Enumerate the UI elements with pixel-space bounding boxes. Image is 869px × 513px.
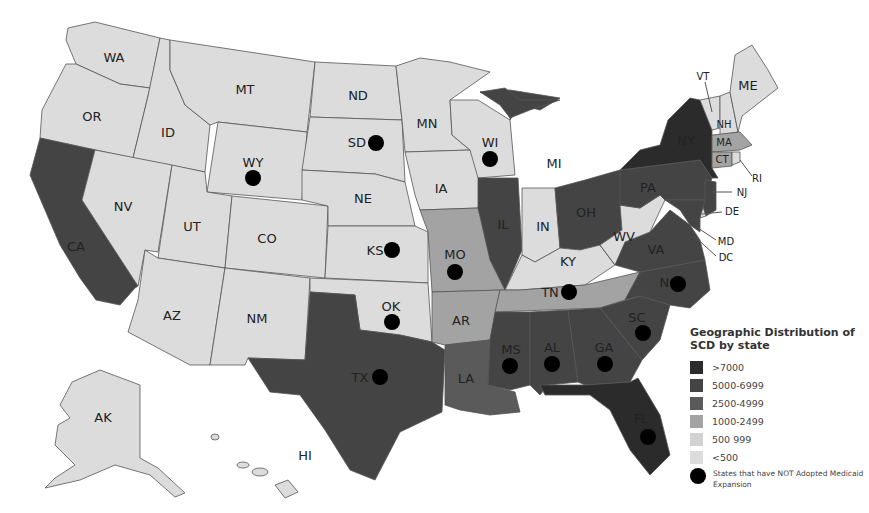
label-mi: MI [546,156,561,171]
label-id: ID [161,125,175,140]
marker-wi [482,151,498,167]
marker-sc [635,325,651,341]
legend-swatch [690,451,703,464]
label-ri: RI [752,173,762,184]
marker-nc [670,276,686,292]
label-co: CO [257,231,276,246]
map-legend: Geographic Distribution of SCD by state … [690,326,865,490]
label-il: IL [497,217,509,232]
marker-tx [372,369,388,385]
label-al: AL [544,340,561,355]
label-ut: UT [183,219,201,234]
label-nv: NV [114,199,133,214]
legend-label: >7000 [712,362,744,373]
label-md: MD [718,236,735,247]
label-ak: AK [94,410,112,425]
label-oh: OH [576,205,596,220]
legend-item: <500 [690,448,865,466]
state-hi-island [211,434,219,440]
label-az: AZ [163,308,181,323]
marker-mo [447,264,463,280]
label-tn: TN [540,285,559,300]
label-ne: NE [354,191,372,206]
marker-fl [640,429,656,445]
marker-ms [502,358,518,374]
legend-label: 2500-4999 [712,398,764,409]
label-ky: KY [560,254,576,269]
label-nd: ND [348,88,368,103]
legend-item: 2500-4999 [690,394,865,412]
label-dc: DC [719,252,734,263]
marker-tn [561,284,577,300]
label-ms: MS [501,342,520,357]
label-vt: VT [697,71,711,82]
label-sc: SC [628,310,645,325]
state-hi-island [252,468,268,476]
label-ma: MA [716,137,732,148]
legend-label: 500 999 [712,434,751,445]
legend-swatch [690,433,703,446]
label-ny: NY [677,133,695,148]
label-nm: NM [247,311,268,326]
legend-item: 1000-2499 [690,412,865,430]
label-mt: MT [235,82,254,97]
label-fl: FL [634,411,649,426]
label-wy: WY [243,155,264,170]
label-wv: WV [613,229,635,244]
label-ks: KS [367,243,384,258]
marker-ks [384,242,400,258]
label-nh: NH [717,119,732,130]
marker-sd [368,135,384,151]
leader-md [698,228,716,240]
label-ar: AR [452,313,470,328]
legend-marker-label: States that have NOT Adopted Medicaid Ex… [713,468,865,490]
state-hi-island [237,462,249,468]
label-ca: CA [67,239,85,254]
label-wi: WI [482,135,499,150]
label-mn: MN [417,116,438,131]
label-or: OR [82,109,101,124]
label-me: ME [738,78,757,93]
marker-ga [597,356,613,372]
label-de: DE [725,206,739,217]
label-ga: GA [595,340,614,355]
label-pa: PA [640,180,656,195]
legend-label: 1000-2499 [712,416,764,427]
legend-marker-item: States that have NOT Adopted Medicaid Ex… [690,468,865,490]
legend-swatch [690,397,703,410]
label-nj: NJ [737,187,747,198]
state-ri[interactable] [732,152,740,165]
label-ia: IA [435,181,448,196]
marker-al [544,356,560,372]
state-ak[interactable] [45,370,185,497]
legend-label: 5000-6999 [712,380,764,391]
label-sd: SD [348,135,366,150]
leader-ri [740,160,752,176]
state-hi[interactable] [275,480,298,498]
label-wa: WA [103,50,124,65]
label-mo: MO [444,247,465,262]
label-hi: HI [298,448,312,463]
legend-title: Geographic Distribution of SCD by state [690,326,865,352]
marker-ok [384,314,400,330]
legend-item: >7000 [690,358,865,376]
marker-wy [245,170,261,186]
legend-label: <500 [712,452,738,463]
legend-item: 500 999 [690,430,865,448]
state-fl[interactable] [540,378,670,475]
marker-dot-icon [690,468,706,484]
label-ok: OK [382,299,401,314]
label-tx: TX [351,370,369,385]
legend-swatch [690,379,703,392]
label-ct: CT [715,154,729,165]
label-in: IN [536,219,550,234]
legend-item: 5000-6999 [690,376,865,394]
label-va: VA [648,242,665,257]
label-la: LA [458,371,475,386]
legend-swatch [690,361,703,374]
legend-swatch [690,415,703,428]
